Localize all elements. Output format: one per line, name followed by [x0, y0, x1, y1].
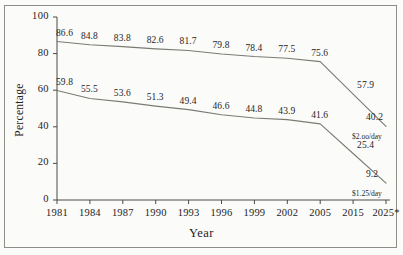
- data-point-label: 79.8: [213, 40, 230, 50]
- data-point-label: 55.5: [81, 84, 98, 94]
- data-point-label: 83.8: [114, 33, 131, 43]
- data-point-label: 43.9: [278, 106, 295, 116]
- data-point-label: 53.6: [114, 88, 131, 98]
- x-axis-title: Year: [0, 226, 403, 241]
- y-tick-label: 60: [15, 83, 49, 94]
- y-tick-label: 80: [15, 47, 49, 58]
- data-point-label: 78.4: [245, 43, 262, 53]
- data-point-label: 77.5: [278, 44, 295, 54]
- data-point-label: 51.3: [147, 92, 164, 102]
- y-tick-label: 100: [15, 10, 49, 21]
- series-end-label: $1.25/day: [352, 189, 382, 198]
- data-point-label: 86.6: [56, 28, 73, 38]
- y-tick-label: 40: [15, 120, 49, 131]
- data-point-label: 41.6: [311, 110, 328, 120]
- data-point-label: 46.6: [213, 101, 230, 111]
- figure-root: Percentage Year 020406080100 19811984198…: [0, 0, 403, 255]
- x-tick-label: 2025*: [366, 207, 403, 218]
- data-point-label: 57.9: [357, 80, 374, 90]
- data-point-label: 82.6: [147, 35, 164, 45]
- data-point-label: 75.6: [311, 48, 328, 58]
- y-axis-title: Percentage: [13, 55, 25, 165]
- data-point-label: 59.8: [56, 77, 73, 87]
- data-point-label: 49.4: [180, 96, 197, 106]
- data-point-label: 9.2: [366, 169, 378, 179]
- data-point-label: 40.2: [366, 112, 383, 122]
- data-point-label: 84.8: [81, 31, 98, 41]
- data-point-label: 44.8: [245, 104, 262, 114]
- series-end-label: $2.oo/day: [352, 132, 382, 141]
- y-tick-label: 0: [15, 193, 49, 204]
- y-tick-label: 20: [15, 156, 49, 167]
- data-point-label: 81.7: [180, 36, 197, 46]
